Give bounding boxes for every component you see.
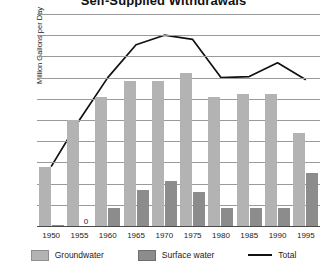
bar-groundwater[interactable] <box>67 120 79 226</box>
bar-surface-water[interactable] <box>250 208 262 226</box>
bar-groundwater[interactable] <box>95 97 107 226</box>
legend-label-groundwater: Groundwater <box>55 250 104 260</box>
bar-surface-water[interactable] <box>52 225 64 226</box>
bar-surface-water[interactable] <box>193 192 205 226</box>
bar-group <box>150 14 178 226</box>
legend-label-total: Total <box>278 250 296 260</box>
bar-surface-water[interactable] <box>278 208 290 226</box>
bar-surface-water[interactable] <box>306 173 318 226</box>
bar-groundwater[interactable] <box>265 94 277 227</box>
bar-groundwater[interactable] <box>237 94 249 227</box>
bar-group <box>37 14 65 226</box>
bar-groundwater[interactable] <box>180 73 192 226</box>
x-axis-tick-label: 1995 <box>292 231 320 240</box>
bar-group <box>94 14 122 226</box>
bar-surface-water[interactable] <box>137 190 149 226</box>
bar-group <box>179 14 207 226</box>
chart-title: Self-Supplied Withdrawals <box>0 0 327 7</box>
x-axis-tick-label: 1965 <box>122 231 150 240</box>
bar-group <box>292 14 320 226</box>
x-axis-tick-label: 1955 <box>65 231 93 240</box>
legend-swatch-groundwater-icon <box>31 250 49 261</box>
plot-area: Million Gallons per Day 1,00090080070060… <box>37 14 320 227</box>
bar-surface-water[interactable] <box>108 208 120 226</box>
bar-groundwater[interactable] <box>124 81 136 226</box>
bar-group <box>263 14 291 226</box>
data-point-label: 0 <box>80 217 92 226</box>
x-axis-tick-label: 1985 <box>235 231 263 240</box>
x-axis-tick-label: 1990 <box>263 231 291 240</box>
bar-surface-water[interactable] <box>165 181 177 226</box>
chart-container: Self-Supplied Withdrawals Million Gallon… <box>0 0 327 271</box>
bar-group <box>235 14 263 226</box>
bar-groundwater[interactable] <box>152 81 164 226</box>
bar-group <box>122 14 150 226</box>
legend-label-surface-water: Surface water <box>162 250 214 260</box>
bar-groundwater[interactable] <box>208 97 220 226</box>
legend-item-groundwater: Groundwater <box>31 250 104 261</box>
x-axis-tick-label: 1960 <box>94 231 122 240</box>
legend-item-surface-water: Surface water <box>138 250 214 261</box>
x-axis-tick-label: 1980 <box>207 231 235 240</box>
x-axis-tick-label: 1975 <box>179 231 207 240</box>
bar-groundwater[interactable] <box>39 167 51 226</box>
bar-group <box>207 14 235 226</box>
x-axis-tick-label: 1950 <box>37 231 65 240</box>
legend-item-total: Total <box>248 250 296 260</box>
legend-swatch-surface-water-icon <box>138 250 156 261</box>
x-axis-tick-label: 1970 <box>150 231 178 240</box>
bar-groundwater[interactable] <box>293 133 305 226</box>
bar-surface-water[interactable] <box>221 208 233 226</box>
chart-legend: Groundwater Surface water Total <box>0 246 327 264</box>
legend-swatch-total-line-icon <box>248 254 272 256</box>
bar-group <box>65 14 93 226</box>
